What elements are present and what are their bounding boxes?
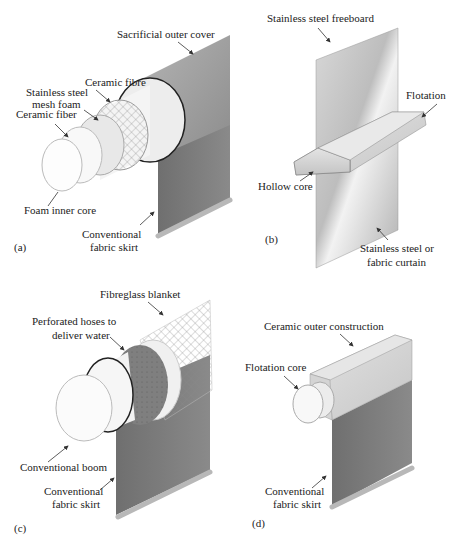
label-blanket: Fibreglass blanket — [100, 288, 180, 300]
label-skirt-2: fabric skirt — [273, 498, 321, 510]
panel-b: Stainless steel freeboard Flotation Holl… — [258, 12, 446, 268]
label-outer: Ceramic outer construction — [264, 320, 384, 332]
label-ceramic-fibre: Ceramic fibre — [85, 76, 146, 88]
panel-c: Fibreglass blanket Perforated hoses to d… — [14, 288, 212, 535]
label-hoses-1: Perforated hoses to — [32, 315, 117, 327]
label-ceramic-fiber: Ceramic fiber — [16, 108, 77, 120]
label-curtain-1: Stainless steel or — [360, 242, 434, 254]
label-mesh-1: Stainless steel — [26, 86, 88, 98]
label-hollow-core: Hollow core — [258, 180, 313, 192]
label-boom: Conventional boom — [20, 461, 108, 473]
label-curtain-2: fabric curtain — [367, 256, 426, 268]
flotation-core — [293, 385, 323, 423]
label-flotation: Flotation — [406, 89, 446, 101]
foam-core — [42, 139, 82, 191]
label-skirt-1: Conventional — [265, 485, 324, 497]
label-skirt-1: Conventional — [44, 485, 103, 497]
label-skirt-2: fabric skirt — [52, 498, 100, 510]
label-skirt-1: Conventional — [82, 228, 141, 240]
panel-a: Sacrificial outer cover Ceramic fibre St… — [14, 28, 230, 254]
conventional-boom-end — [56, 375, 112, 441]
label-foam-core: Foam inner core — [24, 204, 96, 216]
panel-tag-a: (a) — [14, 241, 27, 254]
label-outer-cover: Sacrificial outer cover — [117, 28, 215, 40]
label-core: Flotation core — [245, 361, 307, 373]
label-freeboard: Stainless steel freeboard — [267, 12, 374, 24]
panel-tag-d: (d) — [252, 517, 265, 530]
panel-tag-b: (b) — [265, 233, 278, 246]
label-skirt-2: fabric skirt — [90, 241, 138, 253]
panel-d: Ceramic outer construction Flotation cor… — [245, 320, 412, 530]
panel-tag-c: (c) — [14, 522, 27, 535]
fire-boom-diagram: Sacrificial outer cover Ceramic fibre St… — [0, 0, 459, 550]
label-hoses-2: deliver water — [52, 329, 110, 341]
